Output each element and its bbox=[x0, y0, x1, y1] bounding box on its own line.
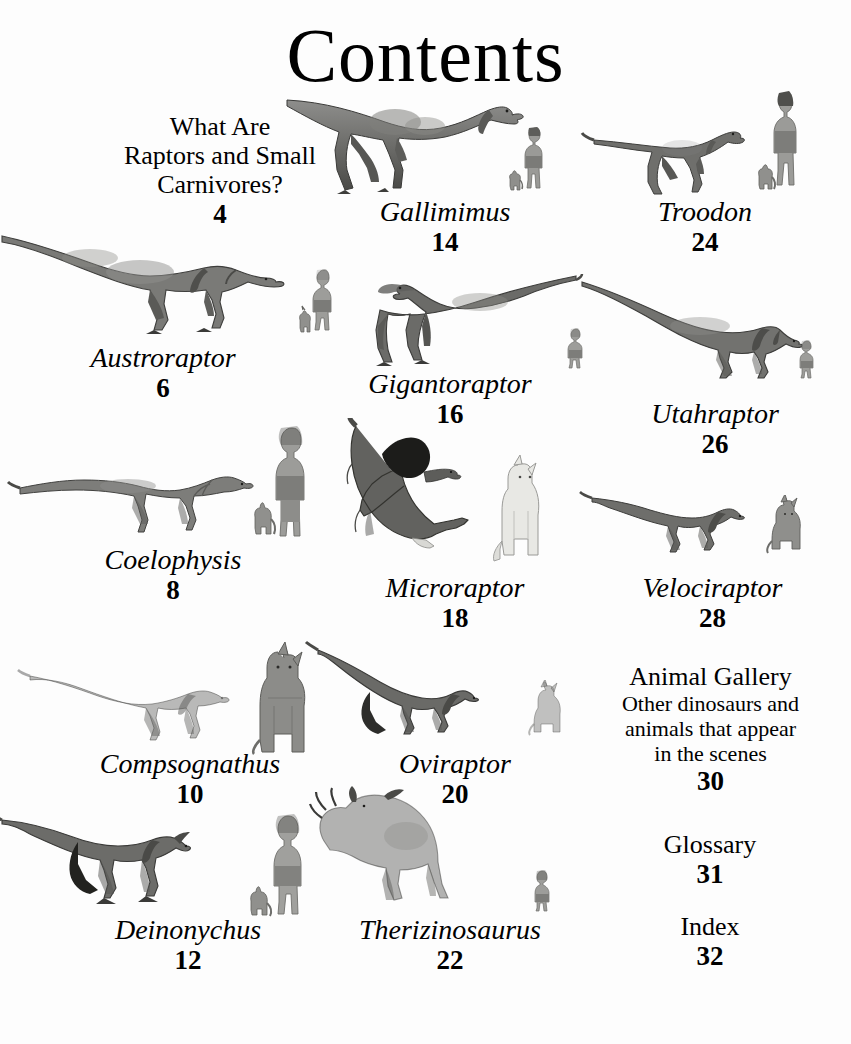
entry-page-number: 28 bbox=[600, 604, 825, 633]
entry-title-line-3: Carnivores? bbox=[100, 170, 340, 199]
entry-description-line-3: in the scenes bbox=[588, 741, 833, 766]
entry-troodon[interactable]: Troodon 24 bbox=[605, 196, 805, 257]
entry-therizinosaurus[interactable]: Therizinosaurus 22 bbox=[330, 914, 570, 975]
compsognathus-scale-figures bbox=[250, 640, 330, 759]
entry-page-number: 10 bbox=[60, 780, 320, 809]
entry-page-number: 20 bbox=[365, 780, 545, 809]
entry-page-number: 4 bbox=[100, 200, 340, 229]
entry-title: Compsognathus bbox=[60, 748, 320, 779]
velociraptor-illustration bbox=[588, 480, 778, 570]
troodon-scale-figures bbox=[758, 85, 812, 197]
entry-page-number: 30 bbox=[588, 767, 833, 796]
entry-page-number: 8 bbox=[58, 576, 288, 605]
entry-page-number: 12 bbox=[68, 946, 308, 975]
entry-title-line-2: Raptors and Small bbox=[100, 141, 340, 170]
compsognathus-illustration bbox=[28, 650, 258, 755]
contents-page: Contents bbox=[0, 0, 851, 1044]
oviraptor-scale-figures bbox=[528, 680, 578, 740]
entry-page-number: 32 bbox=[610, 942, 810, 971]
entry-compsognathus[interactable]: Compsognathus 10 bbox=[60, 748, 320, 809]
entry-title: Gigantoraptor bbox=[330, 368, 570, 399]
entry-velociraptor[interactable]: Velociraptor 28 bbox=[600, 572, 825, 633]
gigantoraptor-scale-figures bbox=[560, 326, 594, 374]
utahraptor-scale-figures bbox=[793, 338, 823, 384]
entry-austroraptor[interactable]: Austroraptor 6 bbox=[38, 342, 288, 403]
entry-title: Deinonychus bbox=[68, 914, 308, 945]
entry-page-number: 31 bbox=[610, 860, 810, 889]
entry-page-number: 16 bbox=[330, 400, 570, 429]
entry-animal-gallery[interactable]: Animal Gallery Other dinosaurs and anima… bbox=[588, 662, 833, 796]
entry-title: Troodon bbox=[605, 196, 805, 227]
entry-page-number: 14 bbox=[330, 228, 560, 257]
entry-title: Index bbox=[610, 912, 810, 941]
entry-deinonychus[interactable]: Deinonychus 12 bbox=[68, 914, 308, 975]
entry-title: Glossary bbox=[610, 830, 810, 859]
entry-page-number: 6 bbox=[38, 374, 288, 403]
deinonychus-scale-figures bbox=[250, 810, 314, 922]
gigantoraptor-illustration bbox=[330, 262, 580, 372]
entry-coelophysis[interactable]: Coelophysis 8 bbox=[58, 544, 288, 605]
entry-index[interactable]: Index 32 bbox=[610, 912, 810, 971]
entry-page-number: 26 bbox=[610, 430, 820, 459]
entry-utahraptor[interactable]: Utahraptor 26 bbox=[610, 398, 820, 459]
entry-gigantoraptor[interactable]: Gigantoraptor 16 bbox=[330, 368, 570, 429]
entry-title: Oviraptor bbox=[365, 748, 545, 779]
oviraptor-illustration bbox=[316, 640, 536, 750]
austroraptor-scale-figures bbox=[298, 266, 346, 338]
coelophysis-scale-figures bbox=[254, 420, 324, 544]
gallimimus-scale-figures bbox=[508, 122, 558, 196]
entry-page-number: 18 bbox=[345, 604, 565, 633]
entry-page-number: 24 bbox=[605, 228, 805, 257]
entry-title: Microraptor bbox=[345, 572, 565, 603]
entry-title: Gallimimus bbox=[330, 196, 560, 227]
entry-title: Animal Gallery bbox=[588, 662, 833, 691]
microraptor-scale-figures bbox=[490, 455, 570, 569]
austroraptor-illustration bbox=[0, 228, 330, 343]
entry-glossary[interactable]: Glossary 31 bbox=[610, 830, 810, 889]
therizinosaurus-scale-figures bbox=[528, 868, 558, 916]
entry-title: Velociraptor bbox=[600, 572, 825, 603]
page-title: Contents bbox=[0, 14, 851, 96]
entry-title: Utahraptor bbox=[610, 398, 820, 429]
entry-microraptor[interactable]: Microraptor 18 bbox=[345, 572, 565, 633]
entry-gallimimus[interactable]: Gallimimus 14 bbox=[330, 196, 560, 257]
entry-page-number: 22 bbox=[330, 946, 570, 975]
entry-title: Austroraptor bbox=[38, 342, 288, 373]
entry-description-line-1: Other dinosaurs and bbox=[588, 691, 833, 716]
microraptor-illustration bbox=[338, 418, 488, 568]
entry-title: Coelophysis bbox=[58, 544, 288, 575]
velociraptor-scale-figures bbox=[766, 495, 820, 559]
entry-oviraptor[interactable]: Oviraptor 20 bbox=[365, 748, 545, 809]
entry-description-line-2: animals that appear bbox=[588, 716, 833, 741]
coelophysis-illustration bbox=[18, 440, 268, 550]
entry-title-line-1: What Are bbox=[100, 112, 340, 141]
deinonychus-illustration bbox=[0, 800, 280, 915]
entry-what-are-raptors[interactable]: What Are Raptors and Small Carnivores? 4 bbox=[100, 112, 340, 229]
entry-title: Therizinosaurus bbox=[330, 914, 570, 945]
